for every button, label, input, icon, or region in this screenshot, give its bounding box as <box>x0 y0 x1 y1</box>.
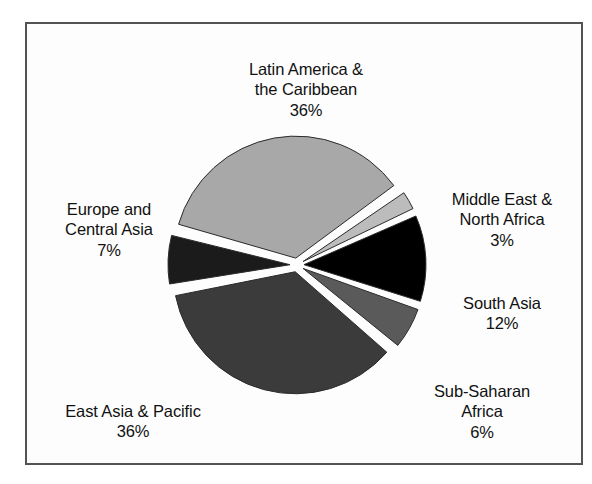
slice-label-sub-saharan-africa-name: Sub-Saharan Africa <box>434 382 530 421</box>
slice-label-east-asia-pacific-name: East Asia & Pacific <box>65 402 201 420</box>
slice-label-east-asia-pacific: East Asia & Pacific 36% <box>20 380 246 462</box>
pie-slices-group <box>168 136 426 394</box>
slice-label-sub-saharan-africa-percent: 6% <box>396 422 568 443</box>
slice-label-south-asia: South Asia 12% <box>418 272 586 354</box>
slice-label-latin-america-percent: 36% <box>196 100 416 121</box>
slice-label-east-asia-pacific-percent: 36% <box>20 421 246 442</box>
slice-label-europe-central-asia: Europe and Central Asia 7% <box>18 178 200 281</box>
slice-label-latin-america: Latin America & the Caribbean 36% <box>196 38 416 141</box>
slice-label-europe-central-asia-percent: 7% <box>18 240 200 261</box>
slice-label-south-asia-name: South Asia <box>463 294 541 312</box>
slice-label-europe-central-asia-name: Europe and Central Asia <box>65 200 153 239</box>
slice-label-south-asia-percent: 12% <box>418 313 586 334</box>
slice-label-middle-east: Middle East & North Africa 3% <box>418 168 586 271</box>
slice-label-middle-east-name: Middle East & North Africa <box>452 190 553 229</box>
slice-label-middle-east-percent: 3% <box>418 230 586 251</box>
pie-chart-figure: Latin America & the Caribbean 36% Middle… <box>0 0 592 484</box>
slice-label-sub-saharan-africa: Sub-Saharan Africa 6% <box>396 360 568 463</box>
slice-label-latin-america-name: Latin America & the Caribbean <box>249 60 363 99</box>
